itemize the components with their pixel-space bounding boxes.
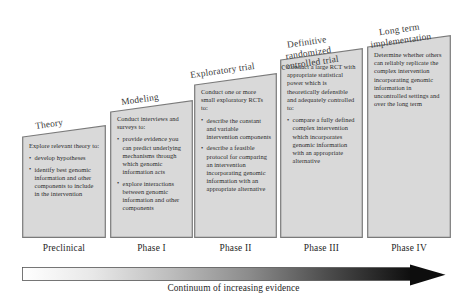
stage-intro-text: Explore relevant theory to: (29, 142, 100, 150)
stage-point: develop hypotheses (29, 154, 100, 162)
stage-point: explore interactions between genomic inf… (117, 180, 187, 213)
stage-intro-text: Determine whether others can reliably re… (374, 51, 445, 108)
stage-point: describe a feasible protocol for compari… (201, 144, 271, 193)
stage-intro-text: Conduct interviews and surveys to: (117, 115, 187, 131)
stage-point: compare a fully defined complex interven… (287, 116, 357, 165)
stage-column-exploratory-trial: Conduct one or more small exploratory RC… (194, 73, 277, 238)
stage-point-list: provide evidence you can predict underly… (117, 135, 187, 212)
stage-intro-text: Conduct one or more small exploratory RC… (201, 88, 271, 113)
phase-label-phase-iii: Phase III (280, 243, 363, 253)
stage-point: describe the constant and variable inter… (201, 117, 271, 142)
stage-point: identify best genomic information and ot… (29, 166, 100, 199)
phase-label-phase-iv: Phase IV (367, 243, 451, 253)
continuum-caption: Continuum of increasing evidence (0, 283, 467, 293)
stage-column-modeling: Conduct interviews and surveys to: provi… (110, 100, 193, 238)
stage-point-list: compare a fully defined complex interven… (287, 116, 357, 165)
stage-column-long-term-implementation: Determine whether others can reliably re… (367, 35, 451, 238)
phase-label-phase-i: Phase I (110, 243, 193, 253)
stage-point-list: describe the constant and variable inter… (201, 117, 271, 194)
phase-label-preclinical: Preclinical (22, 243, 106, 253)
phase-label-phase-ii: Phase II (194, 243, 277, 253)
stage-point: provide evidence you can predict underly… (117, 135, 187, 176)
stage-column-definitive-rct: Conduct a large RCT with appropriate sta… (280, 48, 363, 238)
stage-column-theory: Explore relevant theory to: develop hypo… (22, 125, 106, 238)
evidence-continuum-diagram: Explore relevant theory to: develop hypo… (0, 0, 467, 301)
stage-point-list: develop hypotheses identify best genomic… (29, 154, 100, 198)
